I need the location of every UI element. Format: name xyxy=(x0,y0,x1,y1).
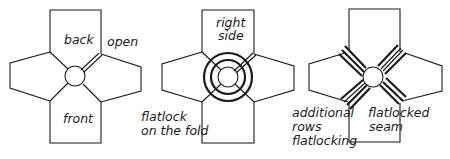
right-sleeve xyxy=(254,54,294,102)
flatlock-rows-top-left xyxy=(339,46,366,76)
label-open: open xyxy=(107,34,138,49)
label-right-side-2: side xyxy=(218,28,244,43)
center-circle xyxy=(65,66,85,86)
figure-flatlocked-seam: additional rows flatlocking flatlocked s… xyxy=(292,9,442,148)
seam-line xyxy=(50,83,68,101)
figure-open: back open front xyxy=(10,10,141,143)
diagram-canvas: back open front right side flatlock on t… xyxy=(0,0,450,159)
left-sleeve xyxy=(162,52,202,102)
right-sleeve xyxy=(101,54,141,102)
back-panel xyxy=(349,9,400,52)
left-sleeve xyxy=(10,52,50,101)
flatlock-rows-top-right xyxy=(378,45,406,74)
center-circle xyxy=(363,67,383,87)
open-seam-line xyxy=(81,53,99,70)
label-flatlock-1: flatlock xyxy=(141,109,188,124)
label-back: back xyxy=(64,32,94,47)
label-front: front xyxy=(63,111,94,126)
open-seam-line xyxy=(84,55,102,72)
flatlock-ring-inner xyxy=(211,60,245,94)
label-additional-3: flatlocking xyxy=(292,133,357,148)
label-additional-2: rows xyxy=(292,119,322,134)
figure-flatlock-fold: right side flatlock on the fold xyxy=(141,10,294,143)
center-circle xyxy=(218,67,238,87)
flatlock-rows-bottom-right xyxy=(380,78,406,104)
label-seam-1: flatlocked xyxy=(368,105,430,120)
front-panel xyxy=(202,102,254,143)
seam-line xyxy=(83,84,101,102)
label-seam-2: seam xyxy=(369,119,403,134)
label-flatlock-2: on the fold xyxy=(141,123,209,138)
seam-line xyxy=(50,52,68,69)
right-sleeve xyxy=(402,53,442,101)
left-sleeve xyxy=(309,53,348,102)
label-additional-1: additional xyxy=(292,105,355,120)
